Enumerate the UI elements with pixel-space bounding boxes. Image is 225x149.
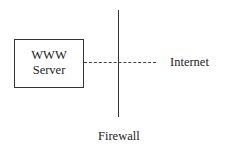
www-server-node: WWW Server — [14, 39, 84, 88]
internet-label: Internet — [170, 55, 209, 70]
server-label-line1: WWW — [15, 48, 83, 63]
connection-dashed-line — [84, 62, 156, 63]
firewall-label: Firewall — [98, 129, 140, 144]
server-label-line2: Server — [15, 63, 83, 78]
firewall-line — [118, 10, 119, 117]
